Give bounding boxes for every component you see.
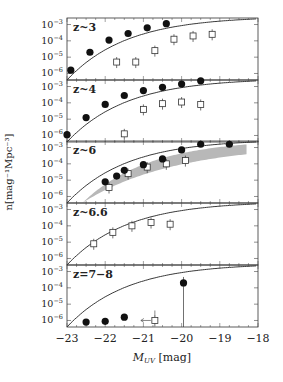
filled-circle-point xyxy=(180,279,187,286)
open-square-point xyxy=(152,48,158,54)
filled-circle-point xyxy=(140,87,147,94)
filled-circle-point xyxy=(102,318,109,325)
filled-circle-point xyxy=(144,24,151,31)
panel-3: 10−310−410−510−6z~6 xyxy=(41,141,258,203)
open-square-point xyxy=(198,101,204,107)
panel-5: 10−310−410−510−6z=7−8 xyxy=(41,265,258,327)
open-square-point xyxy=(182,158,188,164)
open-square-point xyxy=(129,223,135,229)
open-square-point xyxy=(133,59,139,65)
y-tick-label: 10−3 xyxy=(41,141,63,153)
panel-label: z~6.6 xyxy=(73,206,108,219)
open-square-point xyxy=(179,99,185,105)
open-square-point xyxy=(148,220,154,226)
x-tick-label: −20 xyxy=(170,332,193,345)
open-square-point xyxy=(114,59,120,65)
panel-1: 10−310−410−510−6z~3 xyxy=(41,18,258,80)
y-tick-label: 10−5 xyxy=(41,235,63,247)
y-tick-label: 10−5 xyxy=(41,297,63,309)
open-square-point xyxy=(190,33,196,39)
panel-2: 10−310−410−510−6z~4 xyxy=(41,77,258,142)
open-square-point xyxy=(91,241,97,247)
open-square-point xyxy=(140,106,146,112)
filled-circle-point xyxy=(197,141,204,148)
y-tick-label: 10−3 xyxy=(41,80,63,92)
filled-circle-point xyxy=(102,178,109,185)
filled-circle-point xyxy=(121,167,128,174)
y-tick-label: 10−6 xyxy=(41,251,63,263)
y-tick-label: 10−6 xyxy=(41,313,63,325)
x-tick-label: −22 xyxy=(94,332,117,345)
y-tick-label: 10−4 xyxy=(41,34,63,46)
filled-circle-point xyxy=(125,30,132,37)
filled-circle-point xyxy=(67,67,74,74)
open-square-point xyxy=(110,229,116,235)
x-axis-label: MUV [mag] xyxy=(132,351,191,365)
filled-circle-point xyxy=(121,92,128,99)
filled-circle-point xyxy=(113,172,120,179)
filled-circle-point xyxy=(83,114,90,121)
y-tick-label: 10−3 xyxy=(41,203,63,215)
y-tick-label: 10−3 xyxy=(41,18,63,30)
x-tick-label: −23 xyxy=(55,332,78,345)
filled-circle-point xyxy=(197,77,204,84)
y-tick-label: 10−6 xyxy=(41,128,63,140)
y-tick-label: 10−6 xyxy=(41,66,63,78)
y-tick-label: 10−4 xyxy=(41,96,63,108)
y-axis-label: n[mag⁻¹Mpc⁻³] xyxy=(3,133,14,210)
open-square-point xyxy=(160,101,166,107)
panel-label: z~4 xyxy=(73,83,96,96)
y-tick-label: 10−4 xyxy=(41,157,63,169)
panel-label: z~6 xyxy=(73,144,96,157)
filled-circle-point xyxy=(121,314,128,321)
y-tick-label: 10−4 xyxy=(41,281,63,293)
open-square-point xyxy=(121,131,127,137)
open-square-point xyxy=(209,31,215,37)
open-square-point xyxy=(167,221,173,227)
filled-circle-point xyxy=(163,20,170,27)
filled-circle-point xyxy=(86,49,93,56)
filled-circle-point xyxy=(140,161,147,168)
y-tick-label: 10−6 xyxy=(41,189,63,201)
panel-4: 10−310−410−510−6z~6.6 xyxy=(41,203,258,265)
panel-label: z~3 xyxy=(73,21,96,34)
y-tick-label: 10−5 xyxy=(41,112,63,124)
y-tick-label: 10−4 xyxy=(41,219,63,231)
filled-circle-point xyxy=(159,155,166,162)
luminosity-function-chart: 10−310−410−510−6z~310−310−410−510−6z~410… xyxy=(0,0,283,382)
x-tick-label: −19 xyxy=(208,332,231,345)
open-square-point xyxy=(106,185,112,191)
y-tick-label: 10−5 xyxy=(41,50,63,62)
y-tick-label: 10−5 xyxy=(41,173,63,185)
filled-circle-point xyxy=(83,319,90,326)
open-square-point xyxy=(152,317,158,323)
x-tick-label: −21 xyxy=(132,332,155,345)
filled-circle-point xyxy=(105,36,112,43)
y-tick-label: 10−3 xyxy=(41,265,63,277)
confidence-band xyxy=(82,144,246,203)
panel-label: z=7−8 xyxy=(73,268,113,281)
filled-circle-point xyxy=(102,101,109,108)
filled-circle-point xyxy=(178,146,185,153)
filled-circle-point xyxy=(63,131,70,138)
x-tick-label: −18 xyxy=(246,332,269,345)
filled-circle-point xyxy=(178,80,185,87)
filled-circle-point xyxy=(159,84,166,91)
open-square-point xyxy=(171,36,177,42)
filled-circle-point xyxy=(226,141,233,148)
